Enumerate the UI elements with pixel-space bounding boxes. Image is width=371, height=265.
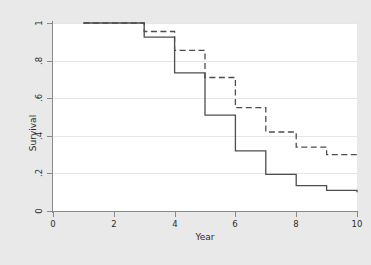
y-axis-title: Survival [28,114,38,150]
solid-curve [83,23,357,192]
dashed-curve [83,23,357,157]
survival-curves-group [0,0,371,265]
x-axis-title: Year [195,232,214,242]
survival-chart-figure: 0.2.4.6.81 0246810 Survival Year [0,0,371,265]
